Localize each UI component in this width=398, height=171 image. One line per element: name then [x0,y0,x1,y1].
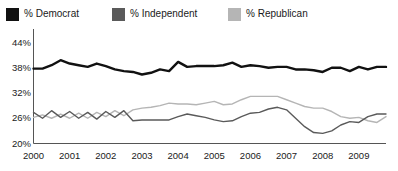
legend-item-republican[interactable]: % Republican [228,5,308,23]
legend-swatch-independent [112,8,125,21]
chart-legend: % Democrat % Independent % Republican [0,5,398,23]
x-tick-label: 2006 [233,150,267,161]
x-tick-label: 2009 [342,150,376,161]
legend-item-independent[interactable]: % Independent [112,5,197,23]
plot-area [0,28,398,148]
legend-label-democrat: % Democrat [24,9,79,19]
series-line-independent [34,107,387,133]
x-axis: 2000200120022003200420052006200720082009 [33,150,385,166]
x-tick-label: 2001 [53,150,87,161]
series-line-democrat [34,60,387,74]
legend-swatch-democrat [6,8,19,21]
chart-container: % Democrat % Independent % Republican 20… [0,0,398,171]
line-chart-svg [0,28,398,148]
x-tick-label: 2008 [306,150,340,161]
x-tick-label: 2002 [89,150,123,161]
x-tick-label: 2004 [161,150,195,161]
series-group [34,60,387,133]
x-tick-label: 2000 [17,150,51,161]
x-tick-label: 2005 [197,150,231,161]
axis-frame [34,29,387,144]
x-tick-label: 2007 [270,150,304,161]
legend-item-democrat[interactable]: % Democrat [6,5,79,23]
x-tick-label: 2003 [125,150,159,161]
legend-swatch-republican [228,8,241,21]
legend-label-independent: % Independent [130,9,197,19]
legend-label-republican: % Republican [246,9,308,19]
